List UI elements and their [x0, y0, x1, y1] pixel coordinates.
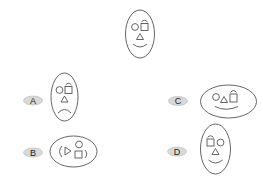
svg-text:B: B [30, 148, 36, 158]
triangle-nose-icon [212, 149, 219, 155]
brow-arc-icon [66, 83, 72, 85]
circle-icon [76, 141, 83, 148]
option-b-label[interactable]: B [24, 148, 43, 158]
svg-text:D: D [174, 147, 181, 157]
square-eye-icon [141, 24, 148, 31]
option-b-face[interactable] [50, 136, 97, 167]
option-d-face[interactable] [201, 124, 231, 174]
square-eye-icon [207, 139, 214, 146]
triangle-nose-icon [61, 96, 68, 102]
option-d-label[interactable]: D [168, 147, 187, 157]
square-eye-icon [230, 94, 237, 102]
brow-arc-icon [142, 20, 148, 22]
triangle-nose-icon [137, 34, 144, 40]
square-icon [75, 151, 82, 158]
square-eye-icon [65, 87, 72, 94]
option-a-label[interactable]: A [24, 96, 43, 106]
smile-icon [209, 160, 223, 163]
smile-icon [215, 107, 238, 110]
circle-eye-icon [217, 139, 224, 146]
option-c-face[interactable] [201, 85, 257, 118]
frown-icon [58, 110, 71, 114]
circle-eye-icon [132, 24, 139, 31]
right-arc-icon [85, 150, 87, 158]
left-arc-icon [60, 146, 63, 157]
face-outline [201, 85, 257, 118]
brow-arc-icon [231, 91, 237, 93]
triangle-nose-icon [221, 97, 228, 103]
option-c-label[interactable]: C [169, 96, 188, 106]
figure-canvas: A B C D [0, 0, 263, 177]
smile-icon [133, 44, 147, 47]
face-outline [50, 136, 97, 167]
option-a-face[interactable] [51, 73, 78, 121]
face-outline [51, 73, 78, 121]
svg-text:C: C [175, 96, 182, 106]
question-face [126, 10, 155, 58]
circle-eye-icon [213, 94, 220, 101]
svg-text:A: A [30, 96, 36, 106]
triangle-icon [65, 147, 71, 155]
brow-arc-icon [208, 136, 214, 138]
circle-eye-icon [56, 87, 63, 94]
